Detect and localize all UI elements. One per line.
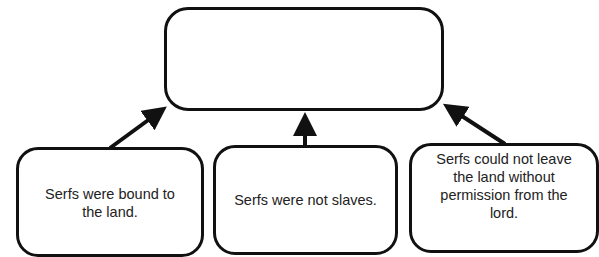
detail-box-middle: Serfs were not slaves. xyxy=(213,145,398,255)
detail-box-right: Serfs could not leave the land without p… xyxy=(409,143,599,253)
detail-text-right: Serfs could not leave the land without p… xyxy=(429,150,579,222)
arrow-right-icon xyxy=(448,107,505,144)
detail-text-middle: Serfs were not slaves. xyxy=(221,191,391,209)
detail-box-left: Serfs were bound to the land. xyxy=(16,147,204,257)
main-idea-box[interactable] xyxy=(164,7,444,111)
arrow-left-icon xyxy=(110,110,162,148)
detail-text-left: Serfs were bound to the land. xyxy=(35,185,185,221)
